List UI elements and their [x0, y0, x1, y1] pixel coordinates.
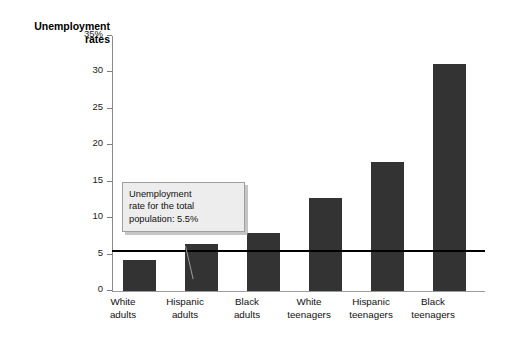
- y-tick-label-25: 25: [92, 101, 103, 112]
- unemployment-rates-bar-chart: Unemployment rates 0 5 10 15 20 25 30 35…: [0, 0, 506, 345]
- y-tick-label-30: 30: [92, 64, 103, 75]
- y-tick-label-5: 5: [98, 247, 103, 258]
- total-population-callout: Unemployment rate for the total populati…: [122, 182, 245, 232]
- y-tick-25: 25: [107, 108, 112, 109]
- y-tick-10: 10: [107, 217, 112, 218]
- x-axis-line: [112, 291, 485, 292]
- y-tick-30: 30: [107, 71, 112, 72]
- y-tick-15: 15: [107, 181, 112, 182]
- bar-white-adults[interactable]: [123, 260, 156, 291]
- y-tick-label-0: 0: [98, 283, 103, 294]
- y-tick-35: 35%: [107, 35, 112, 36]
- y-tick-label-35: 35%: [84, 28, 103, 39]
- plot-area: 0 5 10 15 20 25 30 35%: [112, 36, 485, 292]
- total-population-reference-line: [112, 250, 485, 252]
- y-tick-label-15: 15: [92, 174, 103, 185]
- bar-black-teenagers[interactable]: [433, 64, 466, 291]
- y-tick-label-20: 20: [92, 137, 103, 148]
- x-label-black-teenagers: Black teenagers: [390, 296, 476, 321]
- y-axis-line: [112, 36, 113, 292]
- bar-black-adults[interactable]: [247, 233, 280, 291]
- bar-hispanic-teenagers[interactable]: [371, 162, 404, 291]
- y-tick-0: 0: [107, 290, 112, 291]
- y-tick-20: 20: [107, 144, 112, 145]
- y-tick-5: 5: [107, 254, 112, 255]
- y-tick-label-10: 10: [92, 210, 103, 221]
- bar-white-teenagers[interactable]: [309, 198, 342, 291]
